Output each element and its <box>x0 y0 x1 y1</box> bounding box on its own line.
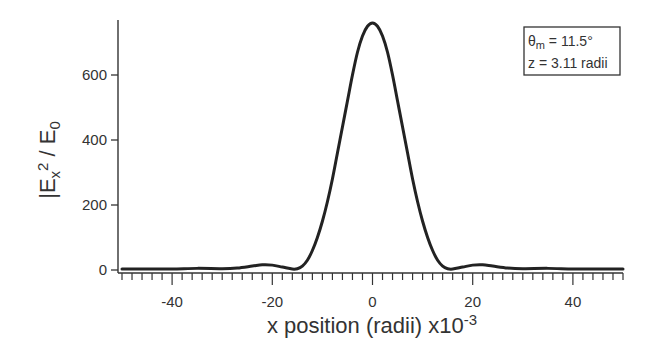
x-tick-label: 40 <box>565 293 582 310</box>
y-axis: 0200400600 <box>82 20 118 278</box>
y-tick-label: 600 <box>82 66 107 83</box>
x-tick-label: 0 <box>368 293 376 310</box>
x-axis-label: x position (radii) x10-3 <box>267 311 477 338</box>
x-tick-label: -20 <box>261 293 283 310</box>
x-axis: -40-2002040 <box>118 273 623 310</box>
y-tick-label: 400 <box>82 131 107 148</box>
annotation-box: θm = 11.5° z = 3.11 radii <box>524 27 620 75</box>
x-tick-label: 20 <box>464 293 481 310</box>
x-tick-label: -40 <box>161 293 183 310</box>
chart: 0200400600 -40-2002040 |Ex2 / E0 x posit… <box>0 0 658 363</box>
y-tick-label: 0 <box>99 261 107 278</box>
y-tick-label: 200 <box>82 196 107 213</box>
y-axis-label: |Ex2 / E0 <box>34 121 62 199</box>
annotation-z: z = 3.11 radii <box>528 55 608 71</box>
